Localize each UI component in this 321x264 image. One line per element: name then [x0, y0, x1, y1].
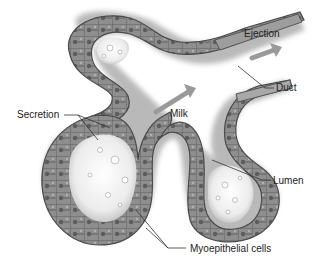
upper-lumen	[96, 37, 129, 64]
label-secretion: Secretion	[17, 109, 59, 121]
label-lumen: Lumen	[273, 175, 304, 187]
label-ejection: Ejection	[244, 28, 280, 40]
label-milk: Milk	[170, 108, 188, 120]
label-duct: Duct	[276, 82, 297, 94]
label-myoepithelial-cells: Myoepithelial cells	[190, 243, 271, 255]
